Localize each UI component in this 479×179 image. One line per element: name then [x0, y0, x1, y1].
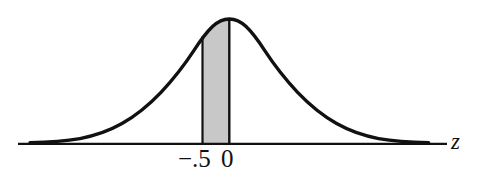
axis-label-z: z [451, 130, 460, 153]
shaded-area-region [203, 19, 230, 143]
normal-curve-figure: −.5 0 z [0, 0, 479, 179]
normal-curve-plot [0, 0, 479, 179]
tick-label-zero: 0 [221, 146, 234, 171]
tick-label-neg-half: −.5 [178, 146, 211, 171]
